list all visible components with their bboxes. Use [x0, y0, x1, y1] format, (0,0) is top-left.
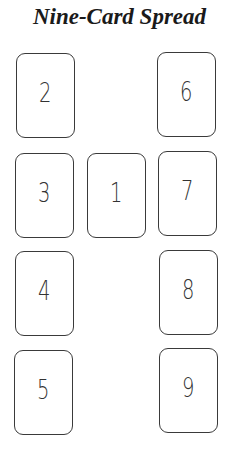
card-number: 6: [180, 77, 192, 107]
card-position-4: 4: [15, 251, 74, 336]
card-position-5: 5: [14, 350, 73, 435]
card-number: 2: [39, 78, 51, 108]
card-position-3: 3: [15, 153, 74, 238]
card-position-6: 6: [157, 52, 216, 137]
card-number: 9: [182, 373, 194, 403]
card-position-2: 2: [16, 53, 75, 138]
card-number: 7: [181, 176, 193, 206]
card-number: 8: [182, 275, 194, 305]
card-position-8: 8: [159, 250, 218, 335]
card-number: 3: [38, 178, 50, 208]
card-number: 4: [38, 276, 50, 306]
spread-title: Nine-Card Spread: [0, 4, 239, 30]
card-position-7: 7: [158, 151, 217, 236]
card-number: 1: [110, 178, 122, 208]
card-position-9: 9: [159, 348, 218, 433]
card-number: 5: [37, 375, 49, 405]
card-position-1: 1: [87, 153, 146, 238]
